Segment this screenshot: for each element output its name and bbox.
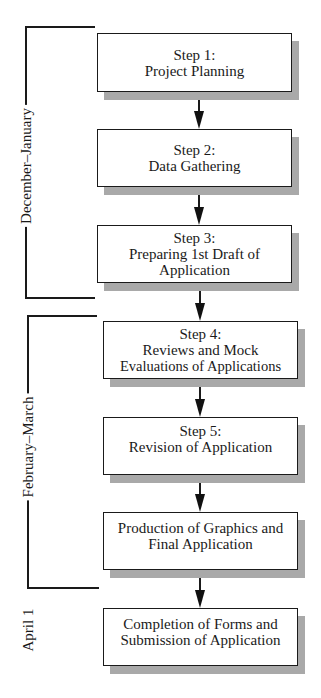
- step-text: Final Application: [148, 536, 253, 552]
- step-text: Evaluations of Applications: [120, 358, 281, 374]
- step-text: Application: [159, 262, 230, 278]
- step-text: Data Gathering: [148, 158, 240, 174]
- bracket-top-line: [27, 315, 97, 317]
- step-box-4: Step 4: Reviews and Mock Evaluations of …: [103, 321, 298, 379]
- step-title: Step 5:: [179, 423, 221, 439]
- step-title: Step 3:: [173, 230, 215, 246]
- step-text: Project Planning: [145, 63, 245, 79]
- arrow-down-icon: [194, 111, 204, 129]
- bracket-bottom-line: [25, 297, 95, 299]
- arrow-down-icon: [195, 303, 205, 321]
- phase-label: February–March: [20, 394, 37, 501]
- step-title: Step 4:: [179, 326, 221, 342]
- bracket-bottom-line: [27, 587, 99, 589]
- step-box-7: Completion of Forms and Submission of Ap…: [103, 608, 298, 666]
- step-text: Production of Graphics and: [118, 520, 283, 536]
- arrow-down-icon: [194, 207, 204, 225]
- step-text: Completion of Forms and: [123, 616, 278, 632]
- arrow-down-icon: [195, 494, 205, 512]
- step-box-3: Step 3: Preparing 1st Draft of Applicati…: [97, 225, 292, 283]
- step-text: Revision of Application: [129, 439, 272, 455]
- step-box-2: Step 2: Data Gathering: [97, 129, 292, 187]
- step-title: Step 2:: [173, 142, 215, 158]
- bracket-top-line: [25, 26, 95, 28]
- step-title: Step 1:: [173, 47, 215, 63]
- arrow-down-icon: [195, 399, 205, 417]
- phase-label: December–January: [18, 105, 35, 227]
- step-text: Preparing 1st Draft of: [129, 246, 260, 262]
- step-box-6: Production of Graphics and Final Applica…: [103, 512, 298, 570]
- arrow-down-icon: [195, 590, 205, 608]
- step-box-1: Step 1: Project Planning: [97, 33, 292, 92]
- step-text: Submission of Application: [120, 632, 280, 648]
- step-text: Reviews and Mock: [143, 342, 259, 358]
- phase-label-april: April 1: [20, 606, 37, 655]
- step-box-5: Step 5: Revision of Application: [103, 417, 298, 475]
